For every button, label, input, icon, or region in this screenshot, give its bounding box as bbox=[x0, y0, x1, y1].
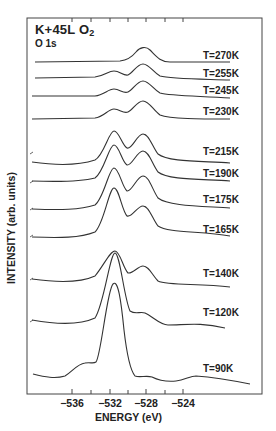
x-tick-label: −524 bbox=[171, 397, 195, 409]
curve-label-175K: T=175K bbox=[203, 194, 239, 205]
chart-subtitle: O 1s bbox=[35, 38, 57, 49]
curve-255K bbox=[35, 64, 230, 80]
curve-label-255K: T=255K bbox=[203, 68, 239, 79]
curve-label-140K: T=140K bbox=[203, 268, 239, 279]
curve-label-215K: T=215K bbox=[203, 146, 239, 157]
bottom-ticks bbox=[72, 389, 183, 394]
chart-title: K+45L O2 bbox=[35, 22, 95, 38]
curve-label-165K: T=165K bbox=[203, 224, 239, 235]
curve-label-190K: T=190K bbox=[203, 168, 239, 179]
curve-215K bbox=[32, 131, 230, 164]
curve-245K bbox=[32, 81, 230, 98]
curve-165K bbox=[32, 188, 230, 237]
spectra-curves bbox=[32, 48, 250, 384]
x-tick-label: −528 bbox=[134, 397, 158, 409]
curve-120K bbox=[32, 253, 225, 328]
x-tick-label: −536 bbox=[60, 397, 84, 409]
curve-label-270K: T=270K bbox=[203, 50, 239, 61]
curve-175K bbox=[32, 168, 230, 210]
curve-270K bbox=[35, 48, 230, 62]
x-axis-label: ENERGY (eV) bbox=[95, 411, 162, 423]
y-axis-label: INTENSITY (arb. units) bbox=[5, 153, 17, 303]
curve-label-90K: T=90K bbox=[203, 363, 233, 374]
curve-230K bbox=[32, 101, 230, 119]
curve-label-120K: T=120K bbox=[203, 307, 239, 318]
curve-190K bbox=[32, 145, 230, 182]
curve-140K bbox=[32, 251, 230, 287]
curve-label-245K: T=245K bbox=[203, 85, 239, 96]
spectra-plot bbox=[0, 0, 276, 431]
x-tick-label: −532 bbox=[98, 397, 122, 409]
curve-label-230K: T=230K bbox=[203, 106, 239, 117]
